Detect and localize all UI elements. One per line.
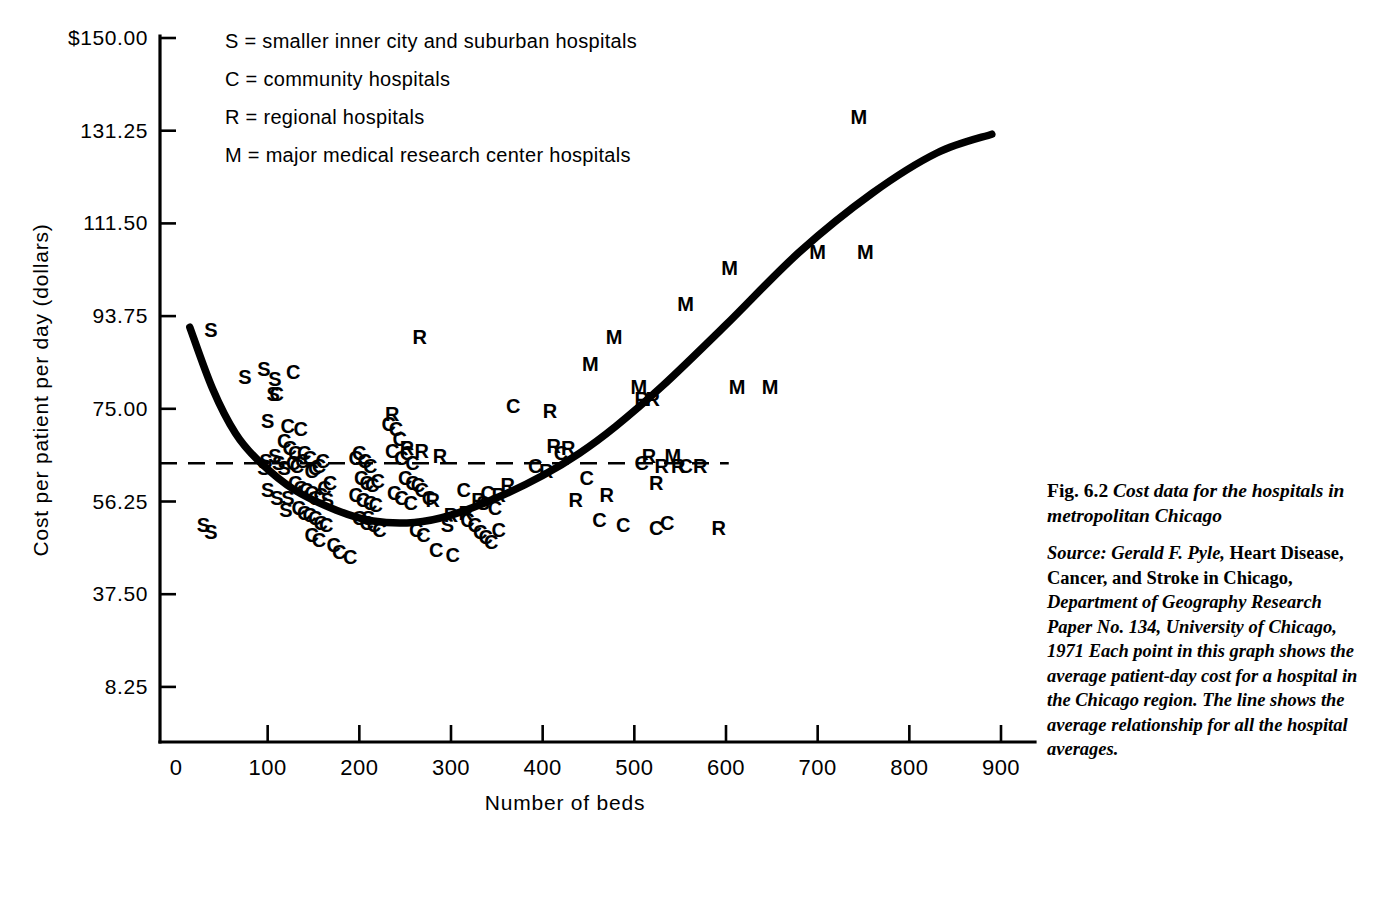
data-point-R: R — [413, 326, 428, 348]
x-tick-label: 800 — [890, 755, 928, 780]
x-tick-label: 600 — [707, 755, 745, 780]
legend-item-c: C = community hospitals — [225, 68, 450, 90]
caption-source-lead: Source: Gerald F. Pyle, — [1047, 543, 1225, 563]
data-point-R: R — [649, 472, 664, 494]
data-point-C: C — [579, 467, 593, 489]
data-point-C: C — [506, 395, 520, 417]
x-tick-label: 700 — [799, 755, 837, 780]
caption-figure-number: Fig. 6.2 — [1047, 480, 1108, 501]
data-point-C: C — [343, 546, 357, 568]
x-tick-label: 900 — [982, 755, 1020, 780]
y-tick-label: $150.00 — [68, 26, 148, 49]
data-point-M: M — [762, 376, 779, 398]
legend: S = smaller inner city and suburban hosp… — [225, 30, 637, 166]
data-point-C: C — [286, 361, 300, 383]
data-point-M: M — [631, 376, 648, 398]
y-tick-label: 8.25 — [105, 675, 148, 698]
caption-source-rest: Department of Geography Research Paper N… — [1047, 592, 1357, 759]
data-point-S: S — [261, 410, 274, 432]
data-point-C: C — [312, 529, 326, 551]
data-point-C: C — [323, 472, 337, 494]
data-point-C: C — [491, 519, 505, 541]
data-point-C: C — [315, 450, 329, 472]
x-axis-title: Number of beds — [485, 791, 646, 814]
data-point-R: R — [600, 484, 615, 506]
data-point-R: R — [400, 437, 415, 459]
y-axis-title: Cost per patient per day (dollars) — [29, 223, 52, 556]
legend-item-r: R = regional hospitals — [225, 106, 425, 128]
x-tick-label: 300 — [432, 755, 470, 780]
data-point-C: C — [592, 509, 606, 531]
data-point-S: S — [238, 366, 251, 388]
y-tick-label: 75.00 — [92, 397, 148, 420]
data-point-M: M — [582, 353, 599, 375]
data-point-S: S — [204, 319, 217, 341]
data-point-C: C — [293, 418, 307, 440]
data-point-R: R — [425, 489, 440, 511]
x-tick-label: 200 — [340, 755, 378, 780]
data-point-R: R — [693, 455, 708, 477]
data-point-M: M — [857, 241, 874, 263]
data-point-C: C — [616, 514, 630, 536]
axes-group — [160, 36, 1035, 742]
y-tick-label: 93.75 — [92, 304, 148, 327]
x-tick-label: 400 — [524, 755, 562, 780]
x-tick-label: 100 — [249, 755, 287, 780]
data-point-M: M — [606, 326, 623, 348]
data-point-C: C — [457, 479, 471, 501]
figure-caption: Fig. 6.2 Cost data for the hospitals in … — [1047, 478, 1367, 762]
data-point-M: M — [851, 106, 868, 128]
data-point-M: M — [721, 257, 738, 279]
legend-item-s: S = smaller inner city and suburban hosp… — [225, 30, 637, 52]
scatter-markers: SSSSSSSSSSSSSSSSSSSSSCCCCCCCCCCCCCCCCCCC… — [197, 106, 874, 568]
data-point-C: C — [429, 539, 443, 561]
data-point-R: R — [543, 400, 558, 422]
y-tick-label: 56.25 — [92, 490, 148, 513]
data-point-R: R — [711, 517, 726, 539]
y-tick-label: 37.50 — [92, 582, 148, 605]
data-point-C: C — [270, 383, 284, 405]
data-point-M: M — [677, 293, 694, 315]
legend-item-m: M = major medical research center hospit… — [225, 144, 631, 166]
data-point-R: R — [546, 435, 561, 457]
x-axis-ticks: 0100200300400500600700800900 — [170, 725, 1020, 780]
caption-source: Source: Gerald F. Pyle, Heart Disease, C… — [1047, 541, 1367, 762]
data-point-R: R — [568, 489, 583, 511]
x-tick-label: 0 — [170, 755, 183, 780]
data-point-R: R — [433, 445, 448, 467]
y-tick-label: 111.50 — [83, 211, 148, 234]
y-tick-label: 131.25 — [80, 119, 148, 142]
data-point-C: C — [660, 512, 674, 534]
data-point-S: S — [204, 521, 217, 543]
data-point-C: C — [446, 544, 460, 566]
scatter-plot: $150.00131.25111.5093.7575.0056.2537.508… — [0, 0, 1385, 904]
figure-root: $150.00131.25111.5093.7575.0056.2537.508… — [0, 0, 1385, 904]
x-tick-label: 500 — [615, 755, 653, 780]
data-point-R: R — [414, 440, 429, 462]
data-point-R: R — [385, 403, 400, 425]
data-point-C: C — [370, 470, 384, 492]
data-point-M: M — [729, 376, 746, 398]
caption-title: Fig. 6.2 Cost data for the hospitals in … — [1047, 478, 1367, 528]
data-point-M: M — [664, 445, 681, 467]
